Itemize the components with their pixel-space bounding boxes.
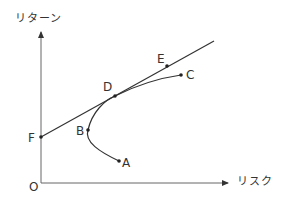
origin-label: O xyxy=(29,181,38,193)
point-a-dot xyxy=(117,159,121,163)
x-axis-label: リスク xyxy=(237,176,273,187)
risk-return-diagram: リターン リスク O A B C D E F xyxy=(0,0,282,202)
point-b-dot xyxy=(86,128,90,132)
point-d-label: D xyxy=(103,81,112,93)
y-axis-label: リターン xyxy=(15,13,62,24)
capital-market-line xyxy=(41,41,214,137)
point-f-label: F xyxy=(28,132,35,144)
point-a-label: A xyxy=(122,157,130,169)
point-f-dot xyxy=(39,135,43,139)
diagram-svg xyxy=(0,0,282,202)
point-e-dot xyxy=(165,64,169,68)
point-b-label: B xyxy=(76,125,84,137)
point-d-dot xyxy=(113,94,117,98)
point-e-label: E xyxy=(157,53,165,65)
point-c-dot xyxy=(179,73,183,77)
efficient-frontier-curve xyxy=(87,75,181,161)
point-c-label: C xyxy=(186,69,194,81)
